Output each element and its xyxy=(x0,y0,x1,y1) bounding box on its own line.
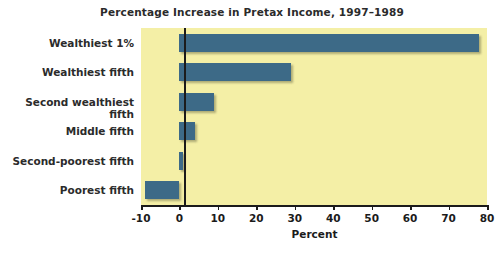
tick-label: 60 xyxy=(390,212,430,224)
x-axis-line xyxy=(141,205,488,207)
bar-row xyxy=(141,176,487,206)
bar-wealthiest-1 xyxy=(179,34,479,52)
tick-mark xyxy=(333,205,335,210)
bar-middle-fifth xyxy=(179,122,194,140)
tick-label: 20 xyxy=(236,212,276,224)
tick-mark xyxy=(179,205,181,210)
chart-figure: Percentage Increase in Pretax Income, 19… xyxy=(0,0,504,256)
tick-mark xyxy=(256,205,258,210)
tick-label: 0 xyxy=(159,212,199,224)
x-axis-label: Percent xyxy=(141,228,488,240)
tick-mark xyxy=(295,205,297,210)
category-label: Middle fifth xyxy=(0,125,134,137)
tick-mark xyxy=(449,205,451,210)
tick-label: 50 xyxy=(352,212,392,224)
category-label: Second-poorest fifth xyxy=(0,155,134,167)
zero-baseline xyxy=(184,28,186,205)
tick-mark xyxy=(487,205,489,210)
tick-label: 70 xyxy=(429,212,469,224)
bar-row xyxy=(141,87,487,117)
plot-area xyxy=(141,28,487,205)
bar-row xyxy=(141,58,487,88)
category-label: Poorest fifth xyxy=(0,184,134,196)
category-label: Wealthiest 1% xyxy=(0,37,134,49)
chart-title: Percentage Increase in Pretax Income, 19… xyxy=(0,6,504,18)
tick-mark xyxy=(141,205,143,210)
bar-poorest-fifth xyxy=(145,181,180,199)
tick-label: 10 xyxy=(198,212,238,224)
bar-row xyxy=(141,146,487,176)
tick-label: 40 xyxy=(313,212,353,224)
tick-mark xyxy=(372,205,374,210)
category-label: Wealthiest fifth xyxy=(0,66,134,78)
bar-row xyxy=(141,28,487,58)
bar-wealthiest-fifth xyxy=(179,63,290,81)
tick-label: 30 xyxy=(275,212,315,224)
bar-second-poorest-fifth xyxy=(179,152,183,170)
tick-label: -10 xyxy=(121,212,161,224)
category-label: Second wealthiest fifth xyxy=(0,96,134,120)
tick-label: 80 xyxy=(467,212,504,224)
tick-mark xyxy=(218,205,220,210)
bar-row xyxy=(141,117,487,147)
tick-mark xyxy=(410,205,412,210)
